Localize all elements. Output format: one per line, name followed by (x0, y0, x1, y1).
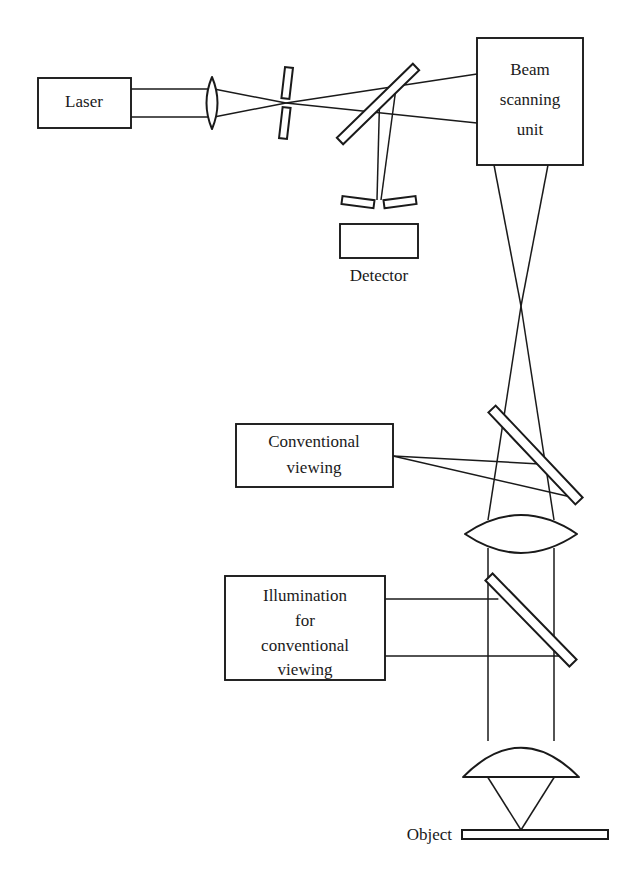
ray-objective-right (521, 776, 555, 830)
conventional-viewing-beamsplitter-icon (488, 406, 582, 505)
detector-pinhole-left-bar (341, 196, 374, 208)
ray-converge-top (214, 89, 286, 103)
objective-lens-icon (463, 748, 579, 777)
tube-to-objective-beam (488, 548, 554, 741)
beam-scanning-unit-label-line3: unit (517, 120, 544, 139)
collimating-lens-icon (207, 77, 218, 129)
ray-objective-left (487, 776, 521, 830)
ray-column-right-upper (521, 165, 548, 306)
source-pinhole-upper-bar (281, 67, 293, 99)
optical-diagram-svg: Laser Beam scanning unit Detector Conven… (0, 0, 626, 884)
ray-converge-bottom (214, 103, 286, 117)
illumination-label-line2: for (295, 611, 315, 630)
objective-focus-cone (487, 776, 555, 830)
ray-detector-left (377, 103, 380, 200)
object-label: Object (407, 825, 453, 844)
conventional-viewing-label-line1: Conventional (268, 432, 360, 451)
laser-label: Laser (65, 92, 103, 111)
illumination-label-line4: viewing (278, 660, 333, 679)
converging-beam-to-pinhole (214, 89, 286, 117)
conventional-viewing-label-line2: viewing (287, 458, 342, 477)
ray-column-left-upper (494, 165, 521, 306)
object-slide (462, 830, 608, 839)
detector-box[interactable] (340, 224, 418, 258)
detector-pinhole-icon (341, 196, 416, 208)
ray-conventional-upper (393, 456, 544, 464)
optical-diagram-canvas: Laser Beam scanning unit Detector Conven… (0, 0, 626, 884)
beam-scanning-unit-label-line2: scanning (500, 90, 561, 109)
detector-label: Detector (350, 266, 409, 285)
laser-output-beam (131, 89, 210, 117)
detector-beamsplitter-icon (337, 64, 419, 144)
source-pinhole-lower-bar (279, 107, 291, 139)
illumination-label-line1: Illumination (263, 586, 348, 605)
ray-column-right-lower (521, 306, 554, 520)
detector-pinhole-right-bar (383, 196, 416, 208)
tube-lens-icon (465, 515, 577, 553)
illumination-label-line3: conventional (261, 636, 349, 655)
beam-scanning-unit-label-line1: Beam (510, 60, 550, 79)
illumination-beamsplitter-icon (485, 574, 576, 667)
